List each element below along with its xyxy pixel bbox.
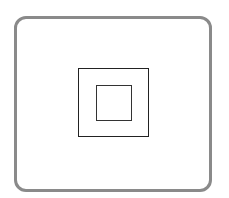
inner-square-shape	[96, 85, 132, 121]
